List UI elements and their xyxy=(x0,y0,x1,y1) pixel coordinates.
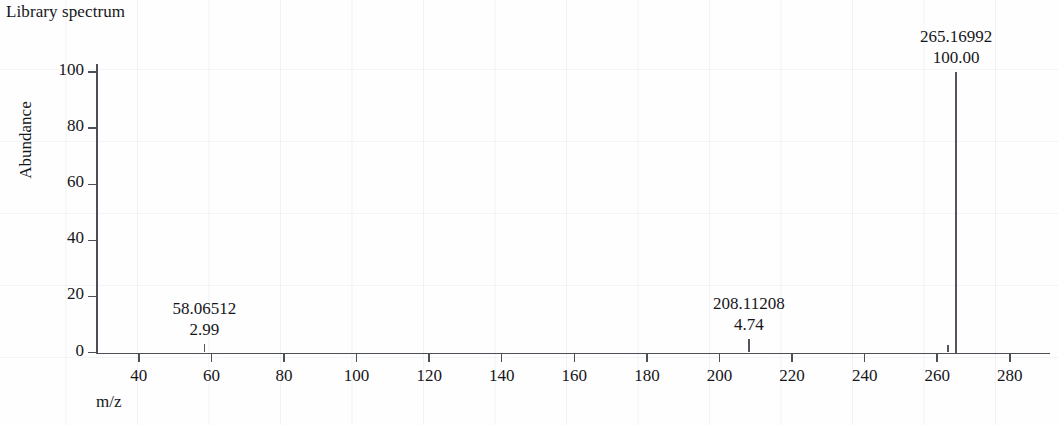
mass-spectrum-figure: Library spectrum Abundance m/z 020406080… xyxy=(0,0,1059,425)
x-axis-tick xyxy=(719,353,721,362)
y-axis-tick xyxy=(88,240,97,242)
peak-mz-value: 58.06512 xyxy=(119,298,289,319)
x-axis-tick-label: 160 xyxy=(547,366,601,386)
peak-abundance-value: 100.00 xyxy=(871,47,1041,68)
peak-line xyxy=(947,345,949,352)
x-axis-tick xyxy=(646,353,648,362)
x-axis-tick xyxy=(211,353,213,362)
y-axis-line xyxy=(96,64,98,354)
peak-label: 58.065122.99 xyxy=(119,298,289,340)
x-axis-tick-label: 180 xyxy=(620,366,674,386)
y-axis-tick-label: 20 xyxy=(40,284,84,304)
x-axis-tick xyxy=(574,353,576,362)
x-axis-tick-label: 240 xyxy=(838,366,892,386)
x-axis-tick-label: 120 xyxy=(402,366,456,386)
y-axis-tick-label: 80 xyxy=(40,116,84,136)
x-axis-tick-label: 40 xyxy=(112,366,166,386)
x-axis-tick-label: 140 xyxy=(475,366,529,386)
x-axis-tick xyxy=(936,353,938,362)
y-axis-tick xyxy=(88,352,97,354)
peak-mz-value: 265.16992 xyxy=(871,26,1041,47)
x-axis-tick xyxy=(791,353,793,362)
peak-line xyxy=(955,72,957,353)
x-axis-tick xyxy=(138,353,140,362)
x-axis-tick-label: 260 xyxy=(910,366,964,386)
x-axis-tick xyxy=(501,353,503,362)
peak-abundance-value: 4.74 xyxy=(664,314,834,335)
x-axis-title: m/z xyxy=(96,392,122,412)
y-axis-tick xyxy=(88,127,97,129)
peak-mz-value: 208.11208 xyxy=(664,293,834,314)
x-axis-tick xyxy=(864,353,866,362)
y-axis-tick-label: 0 xyxy=(40,341,84,361)
y-axis-tick-label: 60 xyxy=(40,172,84,192)
peak-label: 208.112084.74 xyxy=(664,293,834,335)
peak-line xyxy=(204,344,206,352)
peak-abundance-value: 2.99 xyxy=(119,319,289,340)
x-axis-tick xyxy=(428,353,430,362)
y-axis-tick-label: 100 xyxy=(40,60,84,80)
peak-label: 265.16992100.00 xyxy=(871,26,1041,68)
x-axis-tick xyxy=(1009,353,1011,362)
x-axis-tick-label: 100 xyxy=(330,366,384,386)
x-axis-tick xyxy=(283,353,285,362)
y-axis-title: Abundance xyxy=(16,80,36,200)
y-axis-tick xyxy=(88,71,97,73)
y-axis-tick xyxy=(88,184,97,186)
x-axis-tick-label: 60 xyxy=(184,366,238,386)
y-axis-tick-label: 40 xyxy=(40,228,84,248)
x-axis-tick xyxy=(356,353,358,362)
x-axis-tick-label: 220 xyxy=(765,366,819,386)
y-axis-tick xyxy=(88,296,97,298)
x-axis-tick-label: 200 xyxy=(692,366,746,386)
peak-line xyxy=(748,339,750,352)
plot-area: Abundance m/z 020406080100 4060801001201… xyxy=(0,0,1059,425)
x-axis-tick-label: 80 xyxy=(257,366,311,386)
x-axis-tick-label: 280 xyxy=(983,366,1037,386)
